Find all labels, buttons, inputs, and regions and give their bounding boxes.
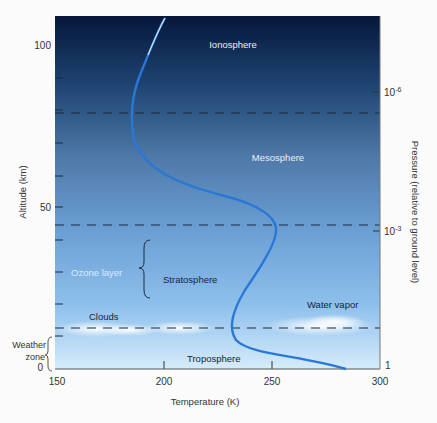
y2-tick-1: 1 bbox=[385, 360, 391, 371]
y-axis-title: Altitude (km) bbox=[17, 165, 28, 218]
label-troposphere: Troposphere bbox=[187, 353, 241, 364]
y2-axis-title: Pressure (relative to ground level) bbox=[410, 141, 421, 284]
y-tick-50: 50 bbox=[40, 202, 52, 213]
y2-tick-1e-3: 10-3 bbox=[384, 225, 401, 237]
label-stratosphere: Stratosphere bbox=[163, 274, 217, 285]
label-clouds: Clouds bbox=[89, 311, 119, 322]
x-tick-300: 300 bbox=[372, 376, 389, 387]
y-tick-0: 0 bbox=[37, 362, 43, 373]
label-weather: Weather bbox=[12, 340, 46, 350]
label-mesosphere: Mesosphere bbox=[252, 152, 304, 163]
label-ozone: Ozone layer bbox=[71, 267, 122, 278]
y2-tick-1e-6: 10-6 bbox=[384, 86, 401, 98]
y-tick-100: 100 bbox=[34, 40, 51, 51]
weather-zone-brace-icon bbox=[45, 337, 52, 371]
atmosphere-chart: Ionosphere Mesosphere Ozone layer Strato… bbox=[0, 0, 437, 423]
label-ionosphere: Ionosphere bbox=[209, 39, 257, 50]
x-tick-250: 250 bbox=[264, 376, 281, 387]
label-water-vapor: Water vapor bbox=[307, 299, 358, 310]
x-tick-200: 200 bbox=[156, 376, 173, 387]
x-tick-150: 150 bbox=[49, 376, 66, 387]
label-zone: zone bbox=[25, 352, 45, 362]
x-axis-title: Temperature (K) bbox=[171, 396, 240, 407]
